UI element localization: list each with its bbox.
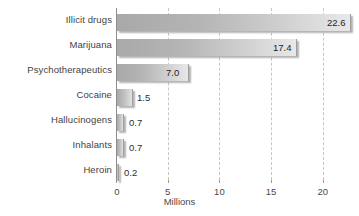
bar-value-hallucinogens: 0.7 xyxy=(129,117,142,128)
category-label-marijuana: Marijuana xyxy=(0,39,112,50)
bar-illicit-drugs[interactable] xyxy=(117,14,351,31)
category-label-cocaine: Cocaine xyxy=(0,89,112,100)
bar-value-cocaine: 1.5 xyxy=(137,92,150,103)
x-axis-title: Millions xyxy=(0,196,359,207)
bar-row-marijuana[interactable]: 17.4 xyxy=(116,39,359,56)
horizontal-bar-chart: Illicit drugs Marijuana Psychotherapeuti… xyxy=(0,0,359,216)
bar-value-heroin: 0.2 xyxy=(124,167,137,178)
bar-value-marijuana: 17.4 xyxy=(273,42,292,53)
bar-row-inhalants[interactable]: 0.7 xyxy=(116,139,359,156)
category-label-illicit-drugs: Illicit drugs xyxy=(0,14,112,25)
bar-row-cocaine[interactable]: 1.5 xyxy=(116,89,359,106)
category-label-hallucinogens: Hallucinogens xyxy=(0,114,112,125)
category-label-heroin: Heroin xyxy=(0,164,112,175)
category-label-psychotherapeutics: Psychotherapeutics xyxy=(0,64,112,75)
bar-row-illicit-drugs[interactable]: 22.6 xyxy=(116,14,359,31)
bar-row-heroin[interactable]: 0.2 xyxy=(116,164,359,181)
bar-value-illicit-drugs: 22.6 xyxy=(327,17,346,28)
bar-hallucinogens[interactable] xyxy=(117,114,124,131)
bar-value-inhalants: 0.7 xyxy=(129,142,142,153)
bar-row-psychotherapeutics[interactable]: 7.0 xyxy=(116,64,359,81)
bar-inhalants[interactable] xyxy=(117,139,124,156)
plot-area: 22.6 17.4 7.0 1.5 0.7 0.7 0.2 0 5 xyxy=(116,8,359,180)
bar-cocaine[interactable] xyxy=(117,89,133,106)
bar-heroin[interactable] xyxy=(117,164,119,181)
bar-value-psychotherapeutics: 7.0 xyxy=(166,67,179,78)
category-label-column: Illicit drugs Marijuana Psychotherapeuti… xyxy=(0,0,112,180)
bar-marijuana[interactable] xyxy=(117,39,297,56)
bar-row-hallucinogens[interactable]: 0.7 xyxy=(116,114,359,131)
category-label-inhalants: Inhalants xyxy=(0,139,112,150)
